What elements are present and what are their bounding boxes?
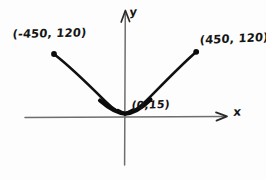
y-axis-line	[125, 14, 126, 165]
left-point-label: (-450, 120)	[12, 27, 87, 40]
y-axis-label: y	[129, 6, 137, 18]
right-endpoint-dot	[193, 49, 199, 55]
right-point-label: (450, 120)	[199, 32, 266, 47]
x-axis-label: x	[233, 106, 242, 118]
left-endpoint-dot	[51, 51, 57, 57]
sketch-figure: (-450, 120) (450, 120) (0,15) x y	[0, 0, 266, 180]
vertex-point-label: (0,15)	[131, 99, 170, 111]
